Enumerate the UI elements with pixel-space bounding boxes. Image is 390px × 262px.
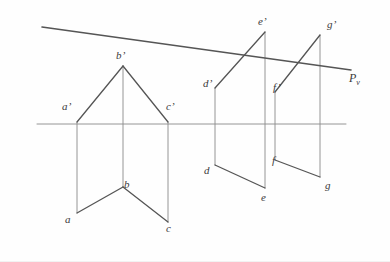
vertex-label-e-prime: e’ [258,16,267,27]
polyline-d-e-edge-0 [215,165,265,188]
triangle-a-b-c-prime-edge-0 [77,66,123,122]
vertex-label-e: e [261,192,266,203]
polyline-a-b-c-edge-1 [123,187,168,222]
projection-diagram: a’b’c’abcd’e’f’g’defg Pv [0,0,390,262]
plane-trace-pv [42,27,351,70]
vertex-label-f-prime: f’ [273,82,281,93]
vertex-label-g: g [325,180,331,191]
vertex-label-b-prime: b’ [116,50,126,61]
vertex-label-b: b [124,179,130,190]
vertex-label-g-prime: g’ [327,19,337,30]
polyline-a-b-c-edge-0 [77,187,123,213]
shape-f-g-prime-edge-0 [275,35,320,92]
plane-trace-label: Pv [349,72,360,87]
drawing-canvas [0,0,390,262]
polyline-f-g-edge-0 [275,160,320,177]
plane-trace-subscript: v [356,78,360,87]
vertex-label-a-prime: a’ [62,101,72,112]
triangle-a-b-c-prime-edge-1 [123,66,168,122]
vertex-label-f: f [272,155,275,166]
vertex-label-c-prime: c’ [166,101,175,112]
vertex-label-d-prime: d’ [203,78,213,89]
plane-trace-group [42,27,351,70]
vertex-label-d: d [204,165,210,176]
vertex-label-a: a [65,214,71,225]
shape-d-e-prime-edge-0 [215,32,265,88]
vertex-label-c: c [166,223,171,234]
